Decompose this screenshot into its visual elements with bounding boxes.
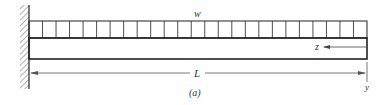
fixed-wall-support	[20, 5, 29, 89]
load-label: w	[194, 8, 201, 19]
figure-caption: (a)	[189, 87, 201, 99]
y-axis-label: y	[364, 82, 369, 92]
cantilever-beam-diagram: z L y w (a)	[0, 0, 388, 105]
z-axis-arrow	[323, 45, 366, 49]
distributed-load-w	[29, 21, 367, 38]
z-axis-label: z	[314, 41, 319, 52]
load-division-lines	[43, 21, 354, 38]
length-label: L	[193, 67, 200, 79]
